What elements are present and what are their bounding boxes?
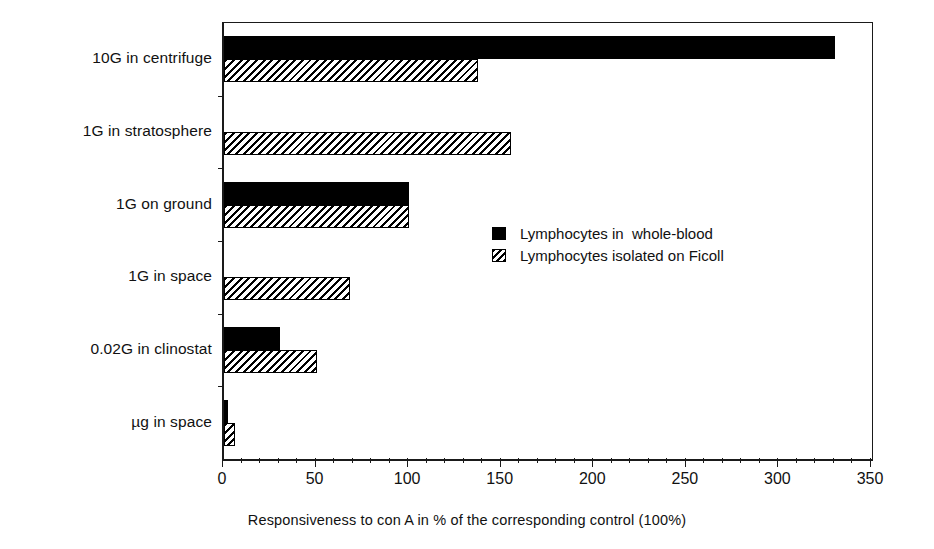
- x-axis-tick-label: 50: [306, 470, 324, 488]
- x-axis-minor-tick: [722, 458, 723, 463]
- x-axis-minor-tick: [537, 458, 538, 463]
- x-axis-major-tick: [777, 458, 778, 467]
- x-axis-minor-tick: [796, 458, 797, 463]
- x-axis-tick-label: 200: [579, 470, 606, 488]
- legend-label: Lymphocytes isolated on Ficoll: [520, 247, 724, 264]
- bar-whole-blood: [224, 400, 228, 423]
- x-axis-minor-tick: [666, 458, 667, 463]
- x-axis-minor-tick: [611, 458, 612, 463]
- x-axis-tick-labels: 050100150200250300350: [222, 470, 872, 494]
- y-axis-category-label: 1G in stratosphere: [0, 122, 212, 140]
- bar-group: [224, 109, 872, 155]
- x-axis-major-tick: [315, 458, 316, 467]
- x-axis-title: Responsiveness to con A in % of the corr…: [0, 512, 934, 528]
- x-axis-minor-tick: [555, 458, 556, 463]
- x-axis-tick-label: 150: [486, 470, 513, 488]
- x-axis-minor-tick: [574, 458, 575, 463]
- x-axis-minor-tick: [518, 458, 519, 463]
- y-axis-tick: [218, 168, 224, 169]
- bar-whole-blood: [224, 36, 835, 59]
- x-axis-minor-tick: [352, 458, 353, 463]
- x-axis-minor-tick: [426, 458, 427, 463]
- bar-group: [224, 327, 872, 373]
- x-axis-ticks: [222, 458, 872, 470]
- y-axis-labels: 10G in centrifuge1G in stratosphere1G on…: [0, 22, 212, 458]
- bar-ficoll: [224, 59, 478, 82]
- x-axis-major-tick: [222, 458, 223, 467]
- legend-item: Lymphocytes in whole-blood: [492, 222, 724, 244]
- bar-group: [224, 36, 872, 82]
- x-axis-minor-tick: [833, 458, 834, 463]
- x-axis-minor-tick: [463, 458, 464, 463]
- x-axis-minor-tick: [740, 458, 741, 463]
- x-axis-minor-tick: [241, 458, 242, 463]
- y-axis-category-label: 1G in space: [0, 267, 212, 285]
- x-axis-tick-label: 100: [394, 470, 421, 488]
- bar-whole-blood: [224, 182, 409, 205]
- bar-ficoll: [224, 277, 350, 300]
- x-axis-minor-tick: [259, 458, 260, 463]
- x-axis-minor-tick: [814, 458, 815, 463]
- bar-ficoll: [224, 350, 317, 373]
- y-axis-tick: [218, 386, 224, 387]
- y-axis-tick: [218, 96, 224, 97]
- x-axis-major-tick: [500, 458, 501, 467]
- y-axis-tick: [218, 241, 224, 242]
- x-axis-minor-tick: [333, 458, 334, 463]
- x-axis-minor-tick: [278, 458, 279, 463]
- x-axis-minor-tick: [296, 458, 297, 463]
- x-axis-minor-tick: [648, 458, 649, 463]
- bar-ficoll: [224, 132, 511, 155]
- x-axis-minor-tick: [629, 458, 630, 463]
- x-axis-minor-tick: [370, 458, 371, 463]
- bar-group: [224, 182, 872, 228]
- x-axis-minor-tick: [703, 458, 704, 463]
- y-axis-category-label: 1G on ground: [0, 195, 212, 213]
- y-axis-category-label: 0.02G in clinostat: [0, 340, 212, 358]
- x-axis-minor-tick: [851, 458, 852, 463]
- bar-ficoll: [224, 423, 235, 446]
- y-axis-category-label: 10G in centrifuge: [0, 49, 212, 67]
- bar-group: [224, 400, 872, 446]
- x-axis-major-tick: [592, 458, 593, 467]
- y-axis-tick: [218, 314, 224, 315]
- bar-chart-figure: 10G in centrifuge1G in stratosphere1G on…: [0, 0, 934, 549]
- x-axis-major-tick: [870, 458, 871, 467]
- x-axis-minor-tick: [481, 458, 482, 463]
- x-axis-minor-tick: [759, 458, 760, 463]
- y-axis-category-label: µg in space: [0, 413, 212, 431]
- legend-item: Lymphocytes isolated on Ficoll: [492, 244, 724, 266]
- x-axis-major-tick: [407, 458, 408, 467]
- legend-swatch-hatched-icon: [492, 249, 506, 262]
- x-axis-major-tick: [685, 458, 686, 467]
- x-axis-tick-label: 0: [218, 470, 227, 488]
- x-axis-minor-tick: [389, 458, 390, 463]
- x-axis-tick-label: 250: [671, 470, 698, 488]
- x-axis-tick-label: 350: [857, 470, 884, 488]
- x-axis-tick-label: 300: [764, 470, 791, 488]
- bar-ficoll: [224, 205, 409, 228]
- legend: Lymphocytes in whole-bloodLymphocytes is…: [492, 222, 724, 266]
- x-axis-minor-tick: [444, 458, 445, 463]
- legend-swatch-solid-icon: [492, 227, 506, 240]
- bar-whole-blood: [224, 327, 280, 350]
- legend-label: Lymphocytes in whole-blood: [520, 225, 713, 242]
